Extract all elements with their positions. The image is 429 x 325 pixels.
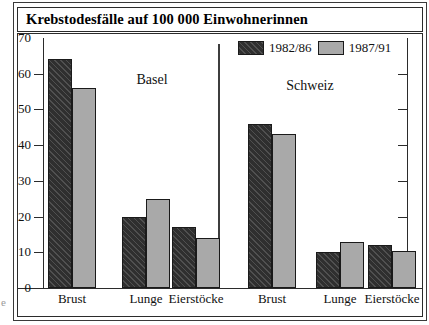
y-axis-label: 50	[0, 101, 31, 117]
x-axis-baseline	[17, 288, 423, 289]
legend-item: 1982/86	[238, 40, 312, 56]
x-axis-label: Eierstöcke	[169, 291, 224, 307]
y-axis-label: 40	[0, 137, 31, 153]
bar	[146, 199, 170, 288]
panel-title-basel: Basel	[136, 72, 167, 88]
bar	[392, 251, 416, 289]
chart-title-box: Krebstodesfälle auf 100 000 Einwohnerinn…	[17, 7, 423, 32]
bar	[122, 217, 146, 288]
x-axis-label: Brust	[258, 291, 286, 307]
legend-swatch	[318, 41, 344, 55]
y-axis-tick	[34, 109, 43, 110]
bar	[196, 238, 220, 288]
y-axis-tick	[34, 252, 43, 253]
y-axis-label: 30	[0, 173, 31, 189]
y-axis-tick-right	[398, 217, 407, 218]
bar	[316, 252, 340, 288]
legend-label: 1987/91	[349, 40, 392, 56]
y-axis-label: 20	[0, 209, 31, 225]
x-axis-label: Lunge	[129, 291, 162, 307]
bar	[72, 88, 96, 288]
edge-stray-mark: e	[1, 296, 6, 308]
panel-title-schweiz: Schweiz	[286, 78, 333, 94]
bar	[340, 242, 364, 288]
y-axis-tick	[34, 145, 43, 146]
legend-item: 1987/91	[318, 40, 392, 56]
chart-legend: 1982/861987/91	[238, 40, 391, 56]
x-axis-label: Eierstöcke	[365, 291, 420, 307]
y-axis-tick	[34, 217, 43, 218]
y-axis-label: 0	[0, 280, 31, 296]
x-axis-label: Brust	[58, 291, 86, 307]
y-axis-label: 70	[0, 30, 31, 46]
y-axis-tick	[34, 74, 43, 75]
bar	[368, 245, 392, 288]
bar	[272, 134, 296, 288]
legend-swatch	[238, 41, 264, 55]
chart-figure: Krebstodesfälle auf 100 000 Einwohnerinn…	[0, 0, 429, 325]
y-axis-label: 10	[0, 244, 31, 260]
y-axis-tick-right	[398, 109, 407, 110]
bar	[172, 227, 196, 288]
y-axis-tick-right	[398, 74, 407, 75]
y-axis-tick-right	[398, 181, 407, 182]
y-axis-label: 60	[0, 66, 31, 82]
legend-label: 1982/86	[269, 40, 312, 56]
bar	[248, 124, 272, 288]
page-title: Krebstodesfälle auf 100 000 Einwohnerinn…	[18, 11, 308, 28]
y-axis-tick	[34, 181, 43, 182]
y-axis-tick-right	[398, 145, 407, 146]
bar	[48, 59, 72, 288]
y-axis-line	[43, 38, 44, 289]
x-axis-label: Lunge	[323, 291, 356, 307]
